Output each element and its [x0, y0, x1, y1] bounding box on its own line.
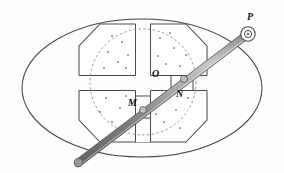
label-pivot-p: P	[247, 12, 253, 22]
pivot-p	[241, 27, 255, 41]
mechanism-diagram-svg	[0, 0, 284, 173]
figure-canvas: P O M N	[0, 0, 284, 173]
label-slider-n: N	[176, 89, 183, 99]
rod-end-cap	[74, 158, 82, 166]
label-center-o: O	[152, 69, 159, 79]
pin-m	[140, 107, 147, 114]
pin-n	[181, 76, 188, 83]
label-slider-m: M	[128, 98, 137, 108]
